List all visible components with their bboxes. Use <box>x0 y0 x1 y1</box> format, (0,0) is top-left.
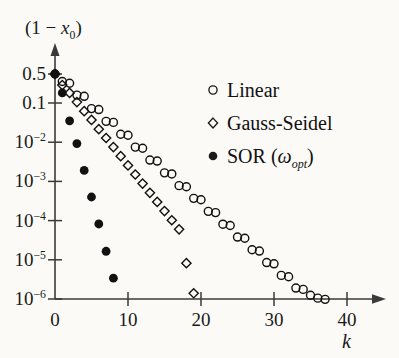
gauss-seidel-point <box>131 170 140 179</box>
legend-item-sor[interactable]: SOR (ωopt) <box>205 146 314 166</box>
linear-point <box>197 196 205 204</box>
y-tick-label: 10−3 <box>14 171 46 190</box>
gauss-seidel-point <box>123 161 132 170</box>
y-tick-label: 10−6 <box>14 289 46 308</box>
sor-point <box>102 247 111 256</box>
convergence-chart: (1 − x0) k 0.50.110−210−310−410−510−6 01… <box>0 0 399 358</box>
y-axis-title: (1 − x0) <box>25 18 82 37</box>
x-tick-label: 20 <box>179 310 223 329</box>
y-axis-arrowhead <box>51 43 60 56</box>
legend-label-linear: Linear <box>227 79 279 102</box>
y-tick-label: 0.5 <box>22 64 46 83</box>
x-axis-title: k <box>342 331 351 351</box>
gauss-seidel-point <box>167 216 176 225</box>
sor-point <box>51 70 60 79</box>
sor-point <box>65 116 74 125</box>
gauss-seidel-point <box>109 142 118 151</box>
gauss-seidel-point <box>182 259 191 268</box>
legend-label-sor: SOR (ωopt) <box>227 145 314 168</box>
gauss-seidel-point <box>153 197 162 206</box>
gauss-seidel-point <box>160 206 169 215</box>
legend-label-gauss-seidel: Gauss-Seidel <box>227 112 333 135</box>
legend-item-gauss-seidel[interactable]: Gauss-Seidel <box>205 113 333 133</box>
x-tick-label: 30 <box>252 310 296 329</box>
x-tick-label: 0 <box>33 310 77 329</box>
filled-circle-icon <box>205 148 221 164</box>
gauss-seidel-point <box>175 225 184 234</box>
y-tick-label: 0.1 <box>22 93 46 112</box>
x-tick-label: 40 <box>325 310 369 329</box>
sor-point <box>80 166 89 175</box>
open-diamond-icon <box>205 115 221 131</box>
gauss-seidel-point <box>102 133 111 142</box>
gauss-seidel-point <box>116 152 125 161</box>
x-axis-arrowhead <box>372 294 386 304</box>
series-sor-markers <box>51 70 118 283</box>
plot-area <box>0 0 399 358</box>
gauss-seidel-point <box>189 289 198 298</box>
y-tick-label: 10−5 <box>14 250 46 269</box>
y-tick-label: 10−2 <box>14 132 46 151</box>
legend-item-linear[interactable]: Linear <box>205 80 279 100</box>
sor-point <box>73 139 82 148</box>
sor-point <box>58 89 67 98</box>
gauss-seidel-point <box>138 179 147 188</box>
gauss-seidel-point <box>87 115 96 124</box>
x-tick-label: 10 <box>106 310 150 329</box>
sor-point <box>109 274 118 283</box>
gauss-seidel-point <box>145 188 154 197</box>
y-tick-label: 10−4 <box>14 211 46 230</box>
open-circle-icon <box>205 82 221 98</box>
gauss-seidel-point <box>94 125 103 134</box>
sor-point <box>87 193 96 202</box>
sor-point <box>94 220 103 229</box>
linear-point <box>190 194 198 202</box>
series-linear-markers <box>51 70 329 303</box>
